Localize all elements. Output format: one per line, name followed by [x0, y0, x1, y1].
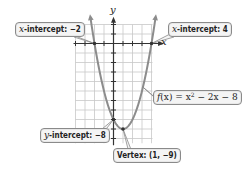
x-intercept-right-callout: x-intercept: 4: [168, 22, 232, 37]
callout-text: -intercept: −8: [49, 131, 106, 140]
function-callout: f(x) = x2 − 2x − 8: [153, 90, 242, 105]
function-rest: − 2x − 8: [195, 92, 238, 102]
y-axis-label: y: [110, 4, 116, 15]
function-args: (x) = x: [160, 92, 190, 102]
x-axis-label: x: [161, 36, 167, 47]
callout-text: -intercept: 4: [177, 25, 228, 34]
vertex-callout: Vertex: (1, −9): [113, 148, 181, 163]
y-intercept-callout: y-intercept: −8: [40, 128, 110, 143]
x-intercept-left-callout: x-intercept: −2: [15, 22, 85, 37]
callout-text: -intercept: −2: [24, 25, 81, 34]
curve-arrowheads: [88, 14, 158, 20]
callout-text: Vertex: (1, −9): [117, 151, 177, 160]
